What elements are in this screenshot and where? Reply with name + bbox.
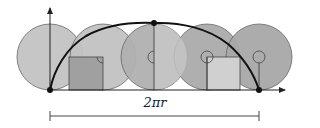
rect-circle-4 xyxy=(207,57,240,90)
circle-3-right-half xyxy=(154,24,187,90)
peak-point xyxy=(151,20,157,26)
end-point xyxy=(256,87,262,93)
rect-circle-2 xyxy=(69,57,103,90)
start-point xyxy=(47,87,53,93)
circumference-label: 2πr xyxy=(143,95,166,110)
